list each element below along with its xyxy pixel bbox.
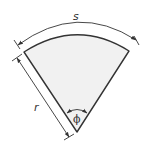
arc-extension-right xyxy=(134,36,139,45)
sector-diagram: s r ϕ xyxy=(0,0,146,150)
radius-extension-top xyxy=(12,54,22,61)
angle-label: ϕ xyxy=(73,113,81,126)
arc-length-label: s xyxy=(73,10,79,23)
radius-label: r xyxy=(34,101,40,114)
